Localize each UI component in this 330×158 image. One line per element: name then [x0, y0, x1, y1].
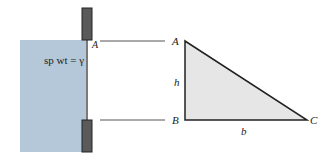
lower-gate-bar — [82, 120, 92, 152]
triangle-vertex-b-label: B — [172, 114, 179, 126]
triangle-height-label: h — [174, 76, 180, 88]
tank-point-a-label: A — [91, 39, 99, 50]
diagram-canvas: sp wt = γ A A h B b C — [0, 0, 330, 158]
triangle-vertex-a-label: A — [171, 35, 179, 47]
fluid-specific-weight-label: sp wt = γ — [44, 54, 84, 66]
diagram-svg: sp wt = γ A A h B b C — [0, 0, 330, 158]
pressure-triangle — [185, 41, 307, 120]
triangle-vertex-c-label: C — [310, 114, 318, 126]
upper-gate-bar — [82, 8, 92, 40]
triangle-base-label: b — [241, 125, 247, 137]
